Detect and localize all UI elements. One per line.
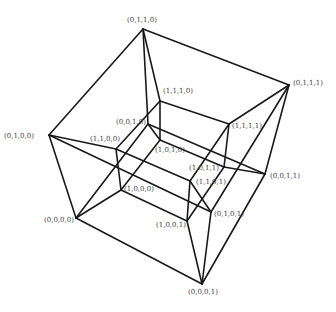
edge <box>76 190 121 218</box>
vertex-label: (0,1,1,0) <box>127 16 157 24</box>
vertex-label: (1,0,1,1) <box>189 164 219 172</box>
edges <box>49 29 289 284</box>
vertex-label: (1,1,1,1) <box>232 122 262 130</box>
vertex-label: (0,1,0,0) <box>4 132 34 140</box>
edge <box>202 174 265 284</box>
vertex-label: (0,0,0,0) <box>44 216 74 224</box>
edge <box>49 135 76 218</box>
vertex-label: (1,1,0,0) <box>90 135 120 143</box>
vertex-label: (1,1,1,0) <box>163 87 193 95</box>
edge <box>143 29 148 124</box>
edge <box>121 190 187 221</box>
vertex-label: (0,0,1,1) <box>270 172 300 180</box>
vertex-label: (1,1,0,1) <box>196 178 226 186</box>
edge <box>224 167 265 174</box>
vertex-label: (1,0,1,0) <box>155 146 185 154</box>
tesseract-graph: (0,0,0,0)(1,0,0,0)(0,1,0,0)(1,1,0,0)(0,0… <box>0 0 336 312</box>
vertex-label: (1,0,0,0) <box>124 185 154 193</box>
edge <box>211 85 289 212</box>
edge <box>190 124 229 181</box>
edge <box>160 101 229 124</box>
vertex-label: (1,0,0,1) <box>156 221 186 229</box>
vertex-label: (0,1,0,1) <box>214 210 244 218</box>
vertex-label: (0,1,1,1) <box>293 79 323 87</box>
vertex-label: (0,0,0,1) <box>188 288 218 296</box>
tesseract-diagram: (0,0,0,0)(1,0,0,0)(0,1,0,0)(1,1,0,0)(0,0… <box>0 0 336 312</box>
edge <box>202 212 211 284</box>
vertex-label: (0,0,1,0) <box>116 118 146 126</box>
edge <box>187 221 202 284</box>
edge <box>143 29 289 85</box>
vertex-labels: (0,0,0,0)(1,0,0,0)(0,1,0,0)(1,1,0,0)(0,0… <box>4 16 323 296</box>
